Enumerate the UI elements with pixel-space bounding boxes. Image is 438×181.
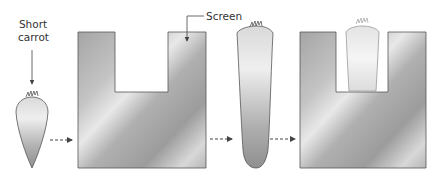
carrot-screen-diagram <box>0 0 438 181</box>
carrot-leaves-icon <box>356 18 368 24</box>
short-carrot-label-line1: Short <box>18 18 48 31</box>
short-carrot-label: Short carrot <box>18 18 48 44</box>
short-carrot-label-line2: carrot <box>18 31 48 44</box>
ghost-carrot <box>346 18 379 91</box>
screen-1 <box>78 32 206 168</box>
carrot-leaves-icon <box>26 91 38 97</box>
short-carrot <box>16 91 48 168</box>
long-carrot <box>237 21 273 168</box>
screen-label: Screen <box>206 10 242 23</box>
